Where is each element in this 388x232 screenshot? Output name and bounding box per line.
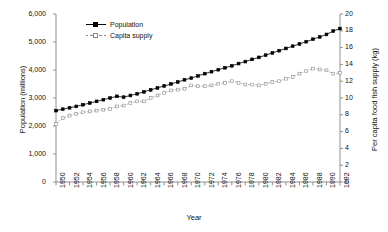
chart-plot-area <box>0 0 388 232</box>
legend-swatch-population-icon <box>86 21 106 29</box>
series-marker-population <box>312 38 315 41</box>
series-marker-capita-supply <box>312 67 315 70</box>
x-axis-tick-label: 1988 <box>316 172 323 188</box>
series-marker-capita-supply <box>109 108 112 111</box>
series-marker-population <box>190 77 193 80</box>
series-marker-population <box>102 98 105 101</box>
series-marker-capita-supply <box>278 80 281 83</box>
series-marker-capita-supply <box>285 77 288 80</box>
series-marker-population <box>82 103 85 106</box>
y-axis-right-tick-label: 16 <box>345 43 371 50</box>
y-axis-left-tick-label: 6,000 <box>12 10 46 17</box>
series-marker-capita-supply <box>251 83 254 86</box>
series-marker-population <box>75 105 78 108</box>
series-marker-capita-supply <box>122 104 125 107</box>
series-marker-population <box>197 74 200 77</box>
x-axis-tick-label: 1966 <box>167 172 174 188</box>
series-marker-population <box>143 90 146 93</box>
x-axis-tick-label: 1958 <box>113 172 120 188</box>
series-marker-capita-supply <box>298 72 301 75</box>
x-axis-tick-label: 1970 <box>194 172 201 188</box>
x-axis-tick-label: 1954 <box>86 172 93 188</box>
chart-container: Population (millions) Per capita food fi… <box>0 0 388 232</box>
series-marker-population <box>95 100 98 103</box>
series-marker-capita-supply <box>55 123 58 126</box>
series-marker-capita-supply <box>203 85 206 88</box>
series-marker-capita-supply <box>163 92 166 95</box>
y-axis-right-tick-label: 8 <box>345 110 371 117</box>
series-marker-capita-supply <box>257 84 260 87</box>
series-marker-population <box>88 102 91 105</box>
series-marker-population <box>318 36 321 39</box>
y-axis-right-tick-label: 14 <box>345 60 371 67</box>
x-axis-tick-label: 1950 <box>59 172 66 188</box>
x-axis-tick-label: 1960 <box>127 172 134 188</box>
series-marker-capita-supply <box>325 69 328 72</box>
x-axis-tick-label: 1964 <box>154 172 161 188</box>
y-axis-left-tick-label: 1,000 <box>12 150 46 157</box>
series-marker-capita-supply <box>271 81 274 84</box>
x-axis-tick-label: 1962 <box>140 172 147 188</box>
legend-label-population: Population <box>110 21 143 28</box>
series-marker-capita-supply <box>143 100 146 103</box>
series-marker-capita-supply <box>224 81 227 84</box>
y-axis-right-tick-label: 18 <box>345 26 371 33</box>
y-axis-left-tick-label: 4,000 <box>12 66 46 73</box>
series-marker-capita-supply <box>102 108 105 111</box>
x-axis-tick-label: 1956 <box>100 172 107 188</box>
series-marker-population <box>136 92 139 95</box>
x-axis-tick-label: 1968 <box>181 172 188 188</box>
series-marker-capita-supply <box>170 89 173 92</box>
y-axis-right-tick-label: 2 <box>345 161 371 168</box>
series-marker-population <box>129 94 132 97</box>
series-marker-population <box>332 30 335 33</box>
series-marker-capita-supply <box>197 85 200 88</box>
series-marker-population <box>61 108 64 111</box>
y-axis-right-tick-label: 6 <box>345 127 371 134</box>
series-marker-capita-supply <box>115 105 118 108</box>
series-marker-capita-supply <box>82 111 85 114</box>
series-marker-capita-supply <box>95 109 98 112</box>
series-marker-capita-supply <box>264 82 267 85</box>
series-marker-capita-supply <box>190 84 193 87</box>
series-marker-population <box>257 56 260 59</box>
series-marker-population <box>244 60 247 63</box>
series-marker-population <box>251 58 254 61</box>
y-axis-right-tick-label: 12 <box>345 77 371 84</box>
series-marker-population <box>170 83 173 86</box>
series-marker-population <box>149 88 152 91</box>
series-marker-population <box>237 62 240 65</box>
series-marker-capita-supply <box>183 87 186 90</box>
x-axis-tick-label: 1978 <box>248 172 255 188</box>
y-axis-left-tick-label: 2,000 <box>12 122 46 129</box>
y-axis-right-tick-label: 10 <box>345 94 371 101</box>
series-marker-population <box>115 95 118 98</box>
series-marker-population <box>183 78 186 81</box>
x-axis-tick-label: 1972 <box>208 172 215 188</box>
legend-item-capita-supply: Capita supply <box>86 30 152 41</box>
y-axis-right-tick-label: 20 <box>345 10 371 17</box>
legend-swatch-capita-supply-icon <box>86 32 106 40</box>
series-marker-population <box>68 106 71 109</box>
x-axis-tick-label: 1974 <box>221 172 228 188</box>
series-marker-capita-supply <box>230 80 233 83</box>
series-marker-capita-supply <box>318 68 321 71</box>
series-marker-population <box>203 72 206 75</box>
series-marker-capita-supply <box>136 100 139 103</box>
series-marker-population <box>109 97 112 100</box>
series-marker-capita-supply <box>176 88 179 91</box>
legend-item-population: Population <box>86 19 152 30</box>
series-marker-population <box>298 43 301 46</box>
series-marker-population <box>210 70 213 73</box>
series-marker-capita-supply <box>339 71 342 74</box>
series-marker-capita-supply <box>68 114 71 117</box>
x-axis-tick-label: 1990 <box>329 172 336 188</box>
series-marker-capita-supply <box>210 84 213 87</box>
series-marker-capita-supply <box>291 76 294 79</box>
y-axis-right-tick-label: 4 <box>345 144 371 151</box>
x-axis-tick-label: 1986 <box>302 172 309 188</box>
series-marker-population <box>285 47 288 50</box>
legend-label-capita-supply: Capita supply <box>110 32 152 39</box>
series-marker-population <box>264 54 267 57</box>
series-marker-population <box>305 40 308 43</box>
